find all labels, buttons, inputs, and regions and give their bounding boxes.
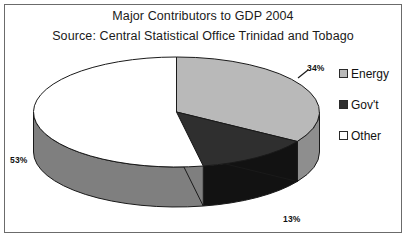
slice-label-govt: 13%	[283, 214, 301, 224]
legend-swatch-govt-icon	[339, 100, 348, 109]
legend-item-govt[interactable]: Gov't	[339, 89, 401, 120]
legend-label-govt: Gov't	[351, 99, 379, 111]
legend-swatch-other-icon	[339, 131, 348, 140]
pie-chart-figure: Major Contributors to GDP 2004 Source: C…	[0, 0, 406, 237]
legend-item-other[interactable]: Other	[339, 120, 401, 151]
legend-item-energy[interactable]: Energy	[339, 58, 401, 89]
slice-label-other: 53%	[10, 155, 28, 165]
legend-swatch-energy-icon	[339, 69, 348, 78]
legend-label-energy: Energy	[351, 68, 389, 80]
legend-label-other: Other	[351, 130, 381, 142]
pie-top-surfaces	[33, 57, 319, 167]
slice-label-energy: 34%	[307, 63, 325, 73]
chart-legend: Energy Gov't Other	[339, 58, 401, 151]
